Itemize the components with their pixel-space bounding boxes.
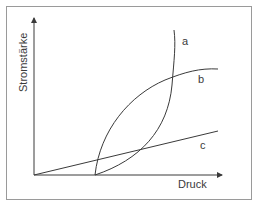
- x-axis-label: Druck: [178, 178, 207, 190]
- chart-canvas: a b c Druck Stromstärke: [0, 0, 263, 205]
- label-c: c: [200, 139, 206, 151]
- line-c: [34, 131, 218, 175]
- label-a: a: [182, 35, 189, 47]
- y-axis-label: Stromstärke: [17, 33, 29, 92]
- label-b: b: [198, 73, 204, 85]
- curve-a: [95, 30, 175, 175]
